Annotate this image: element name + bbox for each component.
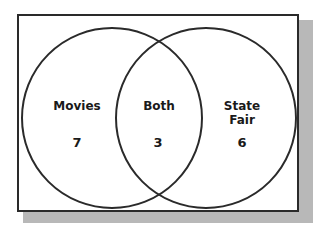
venn-circles [0, 0, 315, 226]
movies-label: Movies [53, 99, 100, 113]
movies-circle [22, 28, 202, 208]
movies-count: 7 [72, 135, 81, 150]
state-fair-label: State Fair [222, 99, 262, 127]
state-fair-circle [116, 28, 296, 208]
both-count: 3 [153, 135, 162, 150]
state-fair-count: 6 [237, 135, 246, 150]
both-label: Both [143, 99, 175, 113]
